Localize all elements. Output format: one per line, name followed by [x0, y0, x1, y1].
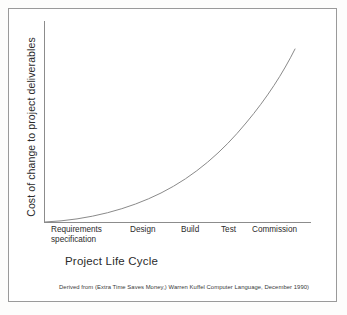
chart-title: Project Life Cycle	[65, 255, 158, 267]
chart-source-caption: Derived from (Extra Time Saves Money,) W…	[59, 283, 334, 291]
y-axis-title: Cost of change to project deliverables	[25, 37, 37, 217]
cost-of-change-curve	[45, 49, 295, 222]
x-tick-label-commission: Commission	[252, 225, 297, 235]
x-tick-label-requirements-specification: Requirements specification	[51, 225, 102, 244]
figure-frame: Cost of change to project deliverables R…	[8, 8, 337, 302]
cost-of-change-chart	[9, 9, 338, 303]
x-tick-label-build: Build	[181, 225, 199, 235]
x-tick-label-design: Design	[130, 225, 156, 235]
plot-area: Cost of change to project deliverables R…	[9, 9, 338, 303]
figure-root: Cost of change to project deliverables R…	[0, 0, 347, 315]
x-tick-label-test: Test	[221, 225, 236, 235]
